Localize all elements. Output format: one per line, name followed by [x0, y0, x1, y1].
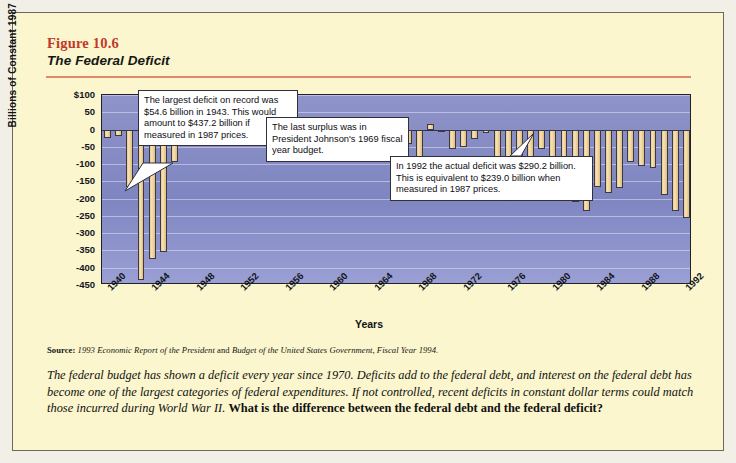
y-tick-label: -100 [49, 159, 95, 168]
figure-number: Figure 10.6 [47, 35, 119, 52]
source-part-2: Budget of the United States Government, … [232, 345, 438, 355]
bar-1973 [471, 130, 478, 140]
bar-1989 [650, 130, 657, 168]
bar-1941 [115, 130, 122, 137]
figure-title: The Federal Deficit [47, 53, 170, 68]
bar-1984 [594, 130, 601, 187]
bar-1940 [104, 130, 111, 139]
bar-1986 [616, 130, 623, 189]
bar-1944 [149, 130, 156, 260]
bar-1970 [438, 130, 445, 133]
caption-text: The federal budget has shown a deficit e… [47, 367, 695, 417]
y-tick-label: -150 [49, 176, 95, 185]
bar-1968 [416, 130, 423, 158]
header-divider [46, 76, 691, 78]
bar-1987 [627, 130, 634, 163]
y-tick-label: -200 [49, 194, 95, 203]
bar-1979 [538, 130, 545, 149]
bar-1988 [638, 130, 645, 166]
y-tick-label: -350 [49, 245, 95, 254]
y-tick-label: -250 [49, 211, 95, 220]
bar-1991 [672, 130, 679, 211]
y-tick-label: -400 [49, 263, 95, 272]
bar-1990 [661, 130, 668, 196]
callout-last-surplus: The last surplus was in President Johnso… [266, 117, 409, 162]
bar-1992 [683, 130, 690, 218]
y-tick-label: 0 [49, 125, 95, 134]
bar-1974 [483, 130, 490, 133]
source-conjunction: and [217, 345, 230, 355]
bar-1945 [160, 130, 167, 253]
y-axis-ticks: $100500-50-100-150-200-250-300-350-400-4… [47, 94, 95, 284]
x-axis-ticks: 1940194419481952195619601964196819721976… [101, 285, 691, 317]
y-tick-label: 50 [49, 107, 95, 116]
y-tick-label: -300 [49, 228, 95, 237]
source-note: Source: 1993 Economic Report of the Pres… [47, 345, 697, 355]
y-tick-label: -50 [49, 142, 95, 151]
source-label: Source: [47, 345, 75, 355]
y-axis-title: Billions of Constant 1987 Dollars [7, 0, 18, 131]
bar-1943 [138, 130, 145, 281]
figure-card: Figure 10.6 The Federal Deficit Billions… [12, 12, 724, 451]
y-tick-label: -450 [49, 280, 95, 289]
caption-question: What is the difference between the feder… [228, 401, 603, 415]
callout-deficit-1992: In 1992 the actual deficit was $290.2 bi… [390, 156, 593, 201]
figure-page: Figure 10.6 The Federal Deficit Billions… [0, 0, 736, 463]
bar-1969 [427, 124, 434, 129]
bar-1985 [605, 130, 612, 194]
bar-1971 [449, 130, 456, 149]
bar-1972 [460, 130, 467, 147]
bar-1942 [126, 130, 133, 187]
source-part-1: 1993 Economic Report of the President [78, 345, 215, 355]
y-tick-label: $100 [49, 90, 95, 99]
x-axis-title: Years [13, 318, 725, 330]
